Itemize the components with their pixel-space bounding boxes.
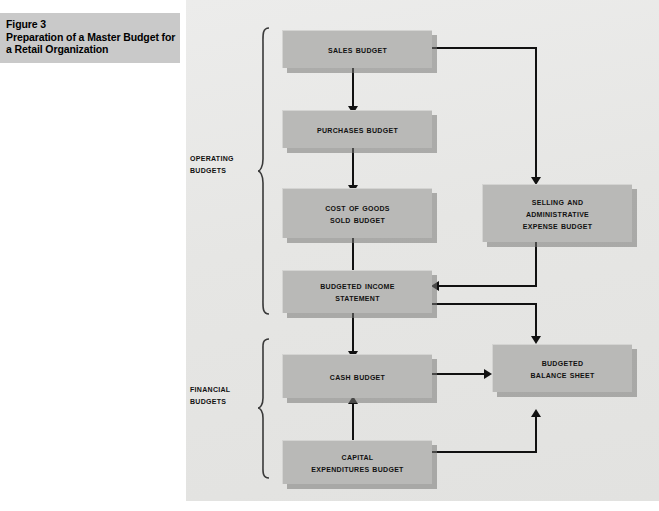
box-sales-budget-label: Sales Budget xyxy=(324,44,391,56)
diagram-panel: Operating Budgets Financial Budgets xyxy=(186,0,659,501)
box-budgeted-income-statement[interactable]: Budgeted Income Statement xyxy=(282,270,432,313)
box-cash-budget-label: Cash Budget xyxy=(326,371,389,383)
figure-number: Figure 3 xyxy=(6,18,174,31)
box-budgeted-balance-sheet[interactable]: Budgeted Balance Sheet xyxy=(492,344,632,392)
operating-budgets-label: Operating Budgets xyxy=(190,152,254,176)
financial-budgets-brace xyxy=(257,337,271,481)
box-cost-of-goods-sold-budget[interactable]: Cost of Goods Sold Budget xyxy=(282,188,432,238)
operating-budgets-label-line-1: Operating xyxy=(190,152,254,164)
connector-bis-to-cash xyxy=(352,313,354,354)
box-purchases-budget-label: Purchases Budget xyxy=(313,124,402,136)
box-selling-administrative-expense-budget-label: Selling and Administrative Expense Budge… xyxy=(519,196,597,232)
connector-purchases-to-cogs xyxy=(352,148,354,188)
connector-sga-to-bis-horizontal xyxy=(439,285,537,287)
connector-capex-to-bbs-arrowhead xyxy=(531,409,541,417)
financial-budgets-label-line-2: Budgets xyxy=(190,395,254,407)
connector-capex-to-cash xyxy=(352,398,354,440)
box-capital-expenditures-budget[interactable]: Capital Expenditures Budget xyxy=(282,440,432,484)
financial-budgets-label-line-1: Financial xyxy=(190,383,254,395)
connector-sga-to-bis-vertical xyxy=(535,242,537,287)
connector-cash-to-bbs-arrowhead xyxy=(484,369,492,379)
figure-title-line-2: a Retail Organization xyxy=(6,43,174,56)
figure-page: Figure 3 Preparation of a Master Budget … xyxy=(0,0,659,511)
box-sales-budget[interactable]: Sales Budget xyxy=(282,30,432,68)
connector-sales-to-sga-vertical xyxy=(535,47,537,182)
box-capital-expenditures-budget-label: Capital Expenditures Budget xyxy=(307,451,407,475)
box-cash-budget[interactable]: Cash Budget xyxy=(282,354,432,398)
box-purchases-budget[interactable]: Purchases Budget xyxy=(282,110,432,148)
connector-cash-to-bbs xyxy=(432,373,487,375)
financial-budgets-label: Financial Budgets xyxy=(190,383,254,407)
connector-bis-to-bbs-arrowhead xyxy=(531,336,541,344)
box-budgeted-balance-sheet-label: Budgeted Balance Sheet xyxy=(526,357,598,381)
connector-bis-to-bbs-horizontal xyxy=(432,303,537,305)
box-cost-of-goods-sold-budget-label: Cost of Goods Sold Budget xyxy=(321,202,393,226)
connector-sga-to-bis-arrowhead xyxy=(431,281,439,291)
operating-budgets-brace xyxy=(257,26,271,316)
figure-caption: Figure 3 Preparation of a Master Budget … xyxy=(0,13,180,63)
box-budgeted-income-statement-label: Budgeted Income Statement xyxy=(316,280,398,304)
figure-title-line-1: Preparation of a Master Budget for xyxy=(6,31,174,44)
connector-sales-to-purchases xyxy=(352,68,354,109)
box-selling-administrative-expense-budget[interactable]: Selling and Administrative Expense Budge… xyxy=(482,184,632,242)
connector-capex-to-bbs-vertical xyxy=(535,412,537,453)
operating-budgets-label-line-2: Budgets xyxy=(190,164,254,176)
connector-capex-to-bbs-horizontal xyxy=(432,451,537,453)
connector-sales-to-sga-horizontal xyxy=(432,47,537,49)
